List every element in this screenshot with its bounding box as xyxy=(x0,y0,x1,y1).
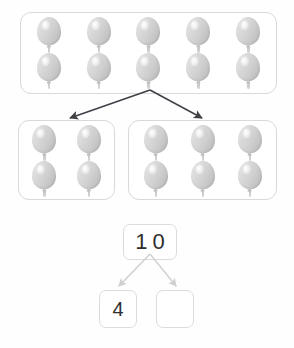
balloon-highlight xyxy=(196,129,203,138)
balloon-body xyxy=(32,125,56,153)
balloon-tail xyxy=(249,191,252,197)
balloon-icon xyxy=(86,53,112,89)
balloon-highlight xyxy=(37,165,44,174)
balloon-highlight xyxy=(82,129,89,138)
balloon-icon xyxy=(190,161,216,197)
balloon-highlight xyxy=(149,129,156,138)
balloon-body xyxy=(144,125,168,153)
balloon-icon xyxy=(86,17,112,53)
balloon-body xyxy=(32,161,56,189)
balloon-body xyxy=(136,53,160,81)
balloon-highlight xyxy=(141,57,148,66)
balloon-icon xyxy=(31,125,57,161)
balloon-body xyxy=(37,53,61,81)
balloon-highlight xyxy=(92,57,99,66)
balloon-body xyxy=(238,161,262,189)
number-bond-part-left-box[interactable]: 4 xyxy=(99,290,137,328)
part-group-right-grid xyxy=(129,121,276,199)
balloon-tail xyxy=(88,191,91,197)
balloon-highlight xyxy=(149,165,156,174)
balloon-icon xyxy=(185,53,211,89)
balloon-icon xyxy=(190,125,216,161)
balloon-highlight xyxy=(243,165,250,174)
balloon-body xyxy=(236,53,260,81)
balloon-tail xyxy=(202,191,205,197)
balloon-icon xyxy=(76,161,102,197)
balloon-body xyxy=(37,17,61,45)
whole-balloon-grid xyxy=(21,13,276,93)
balloon-highlight xyxy=(37,129,44,138)
balloon-body xyxy=(191,161,215,189)
balloon-body xyxy=(136,17,160,45)
balloon-highlight xyxy=(241,57,248,66)
balloon-highlight xyxy=(241,21,248,30)
balloon-highlight xyxy=(42,57,49,66)
balloon-highlight xyxy=(196,165,203,174)
balloon-icon xyxy=(31,161,57,197)
balloon-icon xyxy=(143,125,169,161)
balloon-body xyxy=(87,53,111,81)
part-group-left[interactable] xyxy=(18,120,115,200)
balloon-body xyxy=(186,53,210,81)
balloon-highlight xyxy=(141,21,148,30)
balloon-icon xyxy=(185,17,211,53)
balloon-highlight xyxy=(92,21,99,30)
balloon-highlight xyxy=(243,129,250,138)
balloon-highlight xyxy=(82,165,89,174)
balloon-body xyxy=(87,17,111,45)
balloon-icon xyxy=(36,53,62,89)
balloon-body xyxy=(238,125,262,153)
balloon-icon xyxy=(235,17,261,53)
number-bond-part-right-box[interactable] xyxy=(156,290,194,328)
balloon-body xyxy=(191,125,215,153)
whole-balloon-group[interactable] xyxy=(20,12,277,94)
balloon-highlight xyxy=(191,57,198,66)
balloon-body xyxy=(77,161,101,189)
balloon-body xyxy=(236,17,260,45)
balloon-tail xyxy=(247,83,250,89)
split-arrow-right xyxy=(150,90,202,118)
balloon-icon xyxy=(237,125,263,161)
balloon-icon xyxy=(76,125,102,161)
part-group-left-grid xyxy=(19,121,114,199)
balloon-tail xyxy=(197,83,200,89)
balloon-icon xyxy=(235,53,261,89)
balloon-icon xyxy=(135,17,161,53)
balloon-icon xyxy=(237,161,263,197)
split-arrow-left xyxy=(70,90,150,118)
balloon-icon xyxy=(143,161,169,197)
balloon-icon xyxy=(135,53,161,89)
part-group-right[interactable] xyxy=(128,120,277,200)
balloon-tail xyxy=(155,191,158,197)
balloon-icon xyxy=(36,17,62,53)
worksheet-canvas: 10 4 xyxy=(0,0,294,348)
balloon-body xyxy=(144,161,168,189)
balloon-highlight xyxy=(42,21,49,30)
number-bond-total-box[interactable]: 10 xyxy=(123,224,177,260)
balloon-tail xyxy=(43,191,46,197)
balloon-body xyxy=(186,17,210,45)
balloon-body xyxy=(77,125,101,153)
balloon-tail xyxy=(147,83,150,89)
balloon-highlight xyxy=(191,21,198,30)
balloon-tail xyxy=(98,83,101,89)
balloon-tail xyxy=(48,83,51,89)
